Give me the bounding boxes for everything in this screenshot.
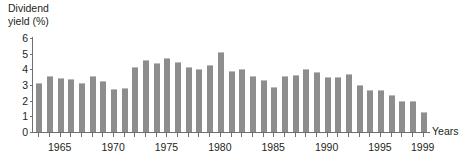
- bar: [314, 72, 320, 132]
- x-tick-mark: [166, 133, 167, 137]
- x-tick-mark: [156, 133, 157, 137]
- bar: [143, 60, 149, 132]
- bar: [399, 101, 405, 132]
- bar: [293, 75, 299, 132]
- y-tick-label: 2: [22, 95, 28, 107]
- x-tick-mark: [252, 133, 253, 137]
- x-tick-mark: [134, 133, 135, 137]
- x-tick-mark: [359, 133, 360, 137]
- x-tick-mark: [295, 133, 296, 137]
- bar: [271, 87, 277, 132]
- x-tick-mark: [401, 133, 402, 137]
- bar: [239, 69, 245, 132]
- y-axis-title: Dividend yield (%): [8, 2, 49, 27]
- x-tick-mark: [102, 133, 103, 137]
- bar: [261, 80, 267, 132]
- x-tick-mark: [145, 133, 146, 137]
- x-tick-mark: [412, 133, 413, 137]
- x-tick-mark: [284, 133, 285, 137]
- bar: [132, 67, 138, 132]
- x-tick-label: 1980: [208, 141, 231, 153]
- x-tick-mark: [220, 133, 221, 137]
- y-tick-label: 0: [22, 126, 28, 138]
- x-tick-label: 1995: [368, 141, 391, 153]
- bar: [47, 76, 53, 132]
- x-axis-ticks-and-labels: 19651970197519801985199019951999: [33, 133, 428, 163]
- x-tick-label: 1970: [101, 141, 124, 153]
- x-tick-mark: [391, 133, 392, 137]
- x-tick-mark: [316, 133, 317, 137]
- bar: [68, 79, 74, 132]
- x-tick-mark: [423, 133, 424, 137]
- bar: [154, 63, 160, 132]
- x-tick-mark: [188, 133, 189, 137]
- x-tick-label: 1985: [262, 141, 285, 153]
- y-tick-mark: [30, 69, 33, 70]
- x-tick-mark: [92, 133, 93, 137]
- x-tick-mark: [348, 133, 349, 137]
- y-tick-label: 6: [22, 32, 28, 44]
- bar: [175, 62, 181, 132]
- x-tick-mark: [38, 133, 39, 137]
- y-tick-mark: [30, 85, 33, 86]
- bar: [410, 101, 416, 132]
- x-tick-mark: [113, 133, 114, 137]
- y-tick-mark: [30, 54, 33, 55]
- y-tick-label: 5: [22, 48, 28, 60]
- x-tick-mark: [49, 133, 50, 137]
- bar: [58, 78, 64, 132]
- bar: [186, 67, 192, 132]
- bar: [282, 76, 288, 132]
- y-tick-label: 4: [22, 63, 28, 75]
- bar: [196, 69, 202, 132]
- y-tick-mark: [30, 38, 33, 39]
- x-axis-title: Years: [432, 125, 458, 137]
- x-tick-label: 1999: [411, 141, 434, 153]
- x-tick-mark: [380, 133, 381, 137]
- bar: [325, 77, 331, 132]
- x-tick-mark: [273, 133, 274, 137]
- bar: [79, 83, 85, 132]
- plot-area: 0123456: [33, 38, 428, 132]
- x-tick-label: 1990: [315, 141, 338, 153]
- bar: [164, 58, 170, 132]
- bar: [335, 77, 341, 132]
- bar: [229, 71, 235, 132]
- bar: [378, 90, 384, 132]
- bar: [36, 83, 42, 132]
- x-tick-mark: [177, 133, 178, 137]
- bar: [303, 69, 309, 132]
- bar: [100, 81, 106, 132]
- y-tick-label: 3: [22, 79, 28, 91]
- x-tick-mark: [263, 133, 264, 137]
- x-tick-mark: [369, 133, 370, 137]
- x-tick-mark: [337, 133, 338, 137]
- x-tick-mark: [231, 133, 232, 137]
- y-tick-mark: [30, 101, 33, 102]
- bar: [367, 90, 373, 132]
- x-tick-label: 1975: [155, 141, 178, 153]
- bar: [90, 76, 96, 132]
- bar: [111, 89, 117, 132]
- x-tick-mark: [60, 133, 61, 137]
- x-tick-label: 1965: [48, 141, 71, 153]
- bar: [207, 65, 213, 132]
- bar: [250, 76, 256, 132]
- x-tick-mark: [209, 133, 210, 137]
- bar: [122, 88, 128, 132]
- y-tick-label: 1: [22, 110, 28, 122]
- x-tick-mark: [327, 133, 328, 137]
- y-tick-mark: [30, 116, 33, 117]
- x-tick-mark: [81, 133, 82, 137]
- x-tick-mark: [241, 133, 242, 137]
- bar: [346, 74, 352, 132]
- bar: [218, 52, 224, 132]
- x-tick-mark: [305, 133, 306, 137]
- chart-container: Dividend yield (%) 0123456 1965197019751…: [0, 0, 472, 166]
- x-tick-mark: [124, 133, 125, 137]
- bar: [389, 95, 395, 132]
- bar: [421, 112, 427, 132]
- x-tick-mark: [70, 133, 71, 137]
- x-tick-mark: [198, 133, 199, 137]
- bar: [357, 85, 363, 132]
